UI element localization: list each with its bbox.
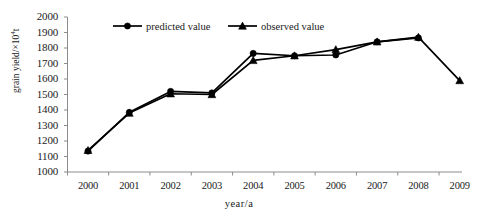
legend-item-predicted: predicted value [113, 21, 211, 32]
data-point-circle [250, 50, 256, 56]
grain-yield-line-chart: grain yield/×104t 2000190018001700160015… [0, 0, 478, 223]
legend-label: predicted value [146, 21, 211, 32]
data-series [84, 33, 464, 154]
series-predicted [85, 35, 422, 154]
axes [64, 17, 462, 176]
legend-item-observed: observed value [228, 21, 325, 32]
chart-legend: predicted valueobserved value [113, 21, 325, 32]
plot-area: predicted valueobserved value [0, 0, 478, 223]
legend-label: observed value [261, 21, 325, 32]
data-point-circle [124, 23, 130, 29]
series-observed [84, 33, 464, 153]
